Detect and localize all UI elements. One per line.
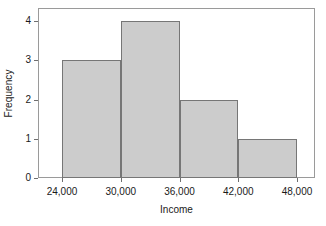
y-axis-title-label: Frequency	[3, 69, 14, 117]
x-tick-mark	[238, 178, 239, 182]
x-tick-label: 36,000	[164, 185, 195, 198]
y-tick-label: 3	[25, 53, 31, 66]
histogram-figure: 43210 Frequency 24,00030,00036,00042,000…	[0, 0, 326, 226]
y-tick-mark	[34, 100, 38, 101]
x-tick-mark	[180, 178, 181, 182]
bars-layer	[38, 8, 315, 178]
histogram-bar	[238, 139, 297, 178]
x-axis: 24,00030,00036,00042,00048,000	[0, 178, 326, 202]
y-tick-mark	[34, 139, 38, 140]
histogram-bar	[121, 21, 180, 178]
x-tick-mark	[297, 178, 298, 182]
y-axis-title: Frequency	[1, 0, 15, 186]
y-tick-mark	[34, 60, 38, 61]
y-tick-label: 4	[25, 14, 31, 27]
x-tick-mark	[121, 178, 122, 182]
x-tick-label: 48,000	[282, 185, 313, 198]
histogram-bar	[180, 100, 239, 179]
histogram-bar	[62, 60, 121, 178]
y-tick-mark	[34, 21, 38, 22]
x-tick-mark	[62, 178, 63, 182]
x-tick-label: 30,000	[105, 185, 136, 198]
y-tick-label: 2	[25, 93, 31, 106]
x-axis-title: Income	[38, 203, 315, 216]
x-tick-label: 42,000	[223, 185, 254, 198]
x-tick-label: 24,000	[47, 185, 78, 198]
y-tick-label: 1	[25, 132, 31, 145]
